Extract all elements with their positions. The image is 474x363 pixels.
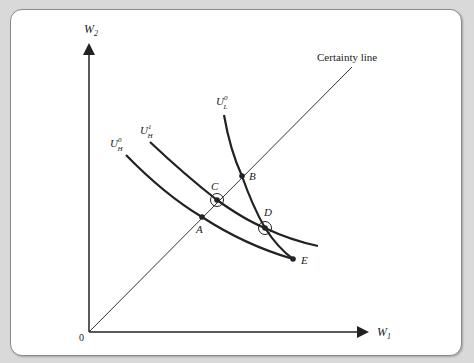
svg-text:C: C <box>211 180 219 192</box>
origin-label: 0 <box>79 332 84 343</box>
label-uh1: U1H <box>140 123 153 140</box>
svg-text:E: E <box>300 254 308 266</box>
svg-text:A: A <box>195 223 203 235</box>
svg-text:B: B <box>249 170 256 182</box>
certainty-line-label: Certainty line <box>317 51 377 63</box>
indifference-curve-diagram: W2 W1 0 Certainty line U0H U1H U0L A B C… <box>0 0 474 363</box>
point-a: A <box>195 214 205 235</box>
svg-text:D: D <box>263 206 272 218</box>
label-uh0: U0H <box>110 136 123 153</box>
point-e: E <box>290 254 308 266</box>
y-axis-label: W2 <box>84 22 98 38</box>
label-ul0: U0L <box>216 94 228 111</box>
x-axis-label: W1 <box>377 325 391 341</box>
